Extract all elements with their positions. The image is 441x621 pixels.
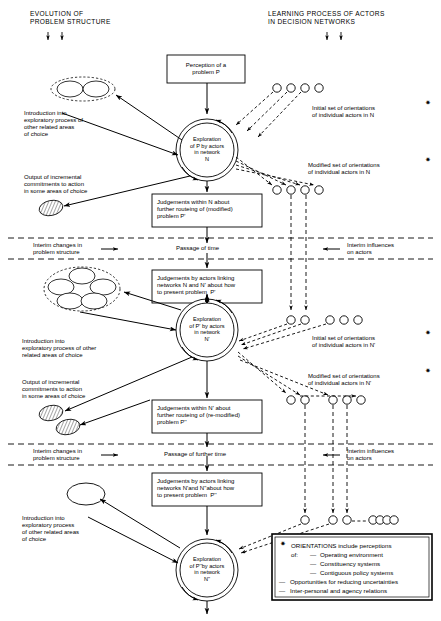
blob2-node-4 [57, 293, 83, 309]
blob2-node-5 [81, 293, 107, 309]
box-judgements-n1-label: Judgements within N' about further route… [157, 405, 261, 426]
hatched-output-3 [55, 417, 82, 437]
header-arrows [48, 32, 341, 40]
orientation-circles-initial-n [273, 84, 323, 92]
caption-modified-n: Modified set of orientations of individu… [308, 162, 380, 176]
legend-dash-5: — [279, 587, 285, 594]
box-judgements-link-n-n1-label: Judgements by actors linking networks N … [157, 275, 261, 296]
header-right: LEARNING PROCESS OF ACTORS IN DECISION N… [268, 10, 385, 26]
caption-modified-n1: Modified set of orientations of individu… [308, 373, 380, 387]
orientation-feed-lines-n1 [305, 405, 347, 513]
legend-extra-1: Opportunities for reducing uncertainties [290, 578, 398, 585]
band-1-left: Interim changes in problem structure [33, 242, 82, 256]
band-2-right: Interim influences on actors [347, 448, 394, 462]
caption-output-2: Output of incremental commitments to act… [22, 379, 85, 400]
star-initial-n1: ✷ [425, 329, 431, 337]
exploration-n-label: Exploration of P by actors in network N [177, 136, 237, 162]
star-modified-n: ✷ [425, 156, 431, 164]
legend-title: ORIENTATIONS include perceptions [291, 542, 392, 549]
caption-output-1: Output of incremental commitments to act… [24, 174, 87, 195]
legend-star-icon: ✷ [280, 540, 286, 548]
orientation-dashed-arrows-initial-n [236, 92, 301, 137]
legend-item-3: Contiguous policy systems [320, 569, 393, 576]
legend-extra-2: Inter-personal and agency relations [290, 587, 387, 594]
band-1-center: Passage of time [176, 245, 219, 252]
diagram-page: EVOLUTION OF PROBLEM STRUCTURE LEARNING … [0, 0, 441, 621]
hatched-output-1 [38, 198, 65, 218]
caption-intro-3: Introduction into exploratory process of… [22, 515, 79, 543]
legend-dash-4: — [279, 578, 285, 585]
exploration-n1-label: Exploration of P' by actors in network N… [177, 316, 237, 342]
legend-item-2: Constituency systems [320, 560, 380, 567]
blob2-node-2 [69, 268, 95, 284]
box-perception-label: Perception of a problem P [167, 62, 245, 76]
star-initial-n: ✷ [425, 99, 431, 107]
left-open-ellipse-3 [67, 483, 105, 505]
orientation-circles-modified-n1 [287, 396, 365, 404]
orientation-circles-modified-n [273, 186, 323, 194]
legend-dash-3: — [310, 569, 316, 576]
header-left: EVOLUTION OF PROBLEM STRUCTURE [30, 10, 111, 26]
band-2-center: Passage of further time [164, 451, 226, 458]
legend-dash-1: — [310, 551, 316, 558]
hatched-outputs [38, 198, 82, 437]
legend-item-1: Operating environment [320, 551, 383, 558]
orientation-circles-initial-n1 [287, 316, 362, 324]
caption-initial-n1: Initial set of orientations of individua… [312, 335, 375, 349]
orientation-feed-lines-n [291, 195, 306, 310]
box-judgements-n-label: Judgements within N about further routei… [157, 199, 261, 220]
band-1-right: Interim influences on actors [347, 242, 394, 256]
caption-intro-2: Introduction into exploratory process of… [22, 338, 96, 359]
orientation-dashed-arrows-modified-n [236, 157, 314, 185]
left-dashed-blob-2 [44, 267, 120, 311]
blob1-node-2 [83, 81, 109, 97]
box-judgements-link-n1-n2-label: Judgements by actors linking networks N'… [157, 478, 261, 499]
left-dashed-blob-1 [51, 77, 115, 101]
orientation-circles-n2 [301, 516, 398, 524]
hatched-output-2 [38, 403, 65, 423]
legend-of-label: of: [291, 551, 298, 558]
blob2-node-3 [90, 279, 116, 295]
legend-dash-2: — [310, 560, 316, 567]
caption-initial-n: Initial set of orientations of individua… [312, 105, 375, 119]
exploration-n2-label: Exploration of P''by actors in network N… [177, 556, 237, 582]
caption-intro-1: Introduction into exploratory process of… [24, 110, 83, 138]
star-modified-n1: ✷ [425, 367, 431, 375]
band-2-left: Interim changes in problem structure [33, 448, 82, 462]
blob2-node-1 [48, 279, 74, 295]
blob1-node-1 [57, 81, 83, 97]
